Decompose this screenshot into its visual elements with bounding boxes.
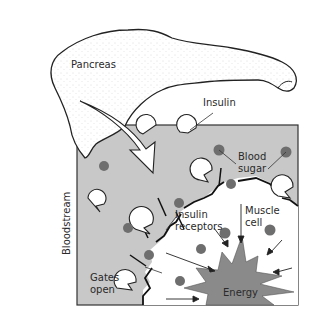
label-gates-open-2: open <box>90 284 115 295</box>
label-muscle-cell-1: Muscle <box>245 205 280 216</box>
label-insulin: Insulin <box>203 97 236 108</box>
label-bloodstream: Bloodstream <box>61 192 72 255</box>
label-blood-sugar-1: Blood <box>238 151 266 162</box>
label-insulin-receptors-1: Insulin <box>175 209 208 220</box>
insulin-diagram: Pancreas Insulin Blood sugar Muscle cell… <box>0 0 316 322</box>
label-energy: Energy <box>223 287 258 298</box>
label-blood-sugar-2: sugar <box>238 163 267 174</box>
label-pancreas: Pancreas <box>71 59 116 70</box>
label-muscle-cell-2: cell <box>245 217 262 228</box>
label-gates-open-1: Gates <box>90 272 119 283</box>
label-insulin-receptors-2: receptors <box>175 221 222 232</box>
